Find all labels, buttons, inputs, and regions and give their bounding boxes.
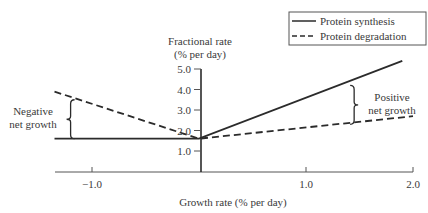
- negative-growth-label: net growth: [9, 118, 57, 130]
- y-tick-label: 1.0: [177, 145, 191, 157]
- y-axis-label-line2: (% per day): [174, 48, 226, 61]
- x-tick-label: −1.0: [82, 178, 102, 190]
- negative-growth-brace: [67, 100, 75, 139]
- x-tick-label: 1.0: [299, 178, 313, 190]
- chart: Protein synthesis Protein degradation Fr…: [0, 0, 428, 213]
- legend: Protein synthesis Protein degradation: [289, 12, 426, 45]
- legend-label-degradation: Protein degradation: [320, 30, 407, 42]
- series-line-protein-degradation: [55, 92, 414, 139]
- legend-label-synthesis: Protein synthesis: [320, 15, 395, 27]
- positive-growth-brace: [350, 85, 358, 124]
- positive-growth-label: Positive: [374, 91, 410, 103]
- y-tick-label: 3.0: [177, 104, 191, 116]
- x-tick-label: 2.0: [406, 178, 420, 190]
- y-tick-label: 4.0: [177, 84, 191, 96]
- positive-growth-label: net growth: [368, 104, 416, 116]
- y-axis-label-line1: Fractional rate: [168, 35, 232, 47]
- y-tick-label: 5.0: [177, 63, 191, 75]
- negative-growth-label: Negative: [13, 105, 53, 117]
- series-line-protein-synthesis: [55, 61, 403, 139]
- x-axis-label: Growth rate (% per day): [179, 196, 287, 209]
